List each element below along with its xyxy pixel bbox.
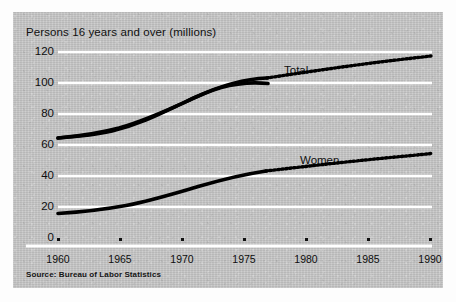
series-women-line [58,154,431,214]
series-total-actual-fix [58,78,267,138]
chart-figure: Persons 16 years and over (millions) 120… [0,0,456,302]
x-marker-1975 [243,238,246,241]
x-axis-marker-dots [57,238,432,241]
series-total-line [58,56,431,138]
x-marker-1965 [119,238,122,241]
x-marker-1970 [181,238,184,241]
series-total-projection [267,56,431,78]
chart-plot-svg [0,0,456,302]
gridlines [26,52,432,246]
x-marker-1990 [429,238,432,241]
series-women-projection [266,154,431,172]
x-marker-1985 [367,238,370,241]
x-marker-1960 [57,238,60,241]
x-marker-1980 [305,238,308,241]
